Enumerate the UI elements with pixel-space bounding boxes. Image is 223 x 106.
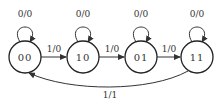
- state-11: 11: [181, 41, 213, 73]
- state-label-00: 00: [18, 52, 33, 63]
- state-label-01: 01: [134, 52, 149, 63]
- state-label-10: 10: [76, 52, 91, 63]
- self-loop-label-01: 0/0: [134, 9, 149, 19]
- state-00: 00: [9, 41, 41, 73]
- transition-11-00: 1/1: [29, 71, 188, 100]
- state-label-11: 11: [190, 52, 205, 63]
- state-01: 01: [125, 41, 157, 73]
- self-loop-00: 0/0: [17, 9, 32, 42]
- transition-label-10-01: 1/0: [105, 44, 120, 54]
- transition-label-01-11: 1/0: [162, 44, 177, 54]
- transition-00-10: 1/0: [41, 44, 66, 57]
- self-loop-10: 0/0: [75, 9, 90, 42]
- transition-label-11-00: 1/1: [103, 90, 117, 100]
- transition-label-00-10: 1/0: [47, 44, 62, 54]
- self-loop-label-10: 0/0: [76, 9, 91, 19]
- state-diagram: 0/0 0/0 0/0 0/0 1/0 1/0 1/0 1/1 00 10: [0, 0, 223, 106]
- self-loop-label-00: 0/0: [18, 9, 33, 19]
- transition-10-01: 1/0: [99, 44, 124, 57]
- self-loop-11: 0/0: [189, 9, 204, 42]
- self-loop-01: 0/0: [133, 9, 148, 42]
- self-loop-label-11: 0/0: [190, 9, 205, 19]
- state-10: 10: [67, 41, 99, 73]
- transition-01-11: 1/0: [157, 44, 180, 57]
